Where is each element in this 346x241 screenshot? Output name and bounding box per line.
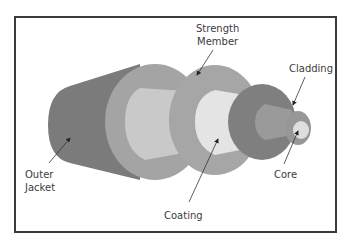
cladding-pointer xyxy=(293,77,305,105)
strength-member-label: Strength Member xyxy=(196,22,239,48)
cladding-label: Cladding xyxy=(289,62,333,75)
fiber-cable-illustration xyxy=(0,0,346,241)
outer-label-line1: Outer xyxy=(25,168,55,181)
outer-jacket-label: Outer Jacket xyxy=(25,168,55,194)
outer-label-line2: Jacket xyxy=(25,181,55,194)
coating-label: Coating xyxy=(164,209,203,222)
buffer-disc xyxy=(228,84,296,160)
core-label-text: Core xyxy=(274,169,297,180)
coating-label-text: Coating xyxy=(164,210,203,221)
strength-label-line1: Strength xyxy=(196,22,239,35)
cladding-label-text: Cladding xyxy=(289,63,333,74)
core-label: Core xyxy=(274,168,297,181)
strength-label-line2: Member xyxy=(196,35,239,48)
